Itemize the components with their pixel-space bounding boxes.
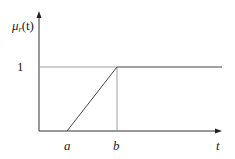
y-tick-1: 1 <box>17 59 24 74</box>
x-axis-arrow-icon <box>215 129 222 134</box>
x-axis-label: t <box>216 138 220 153</box>
membership-line <box>67 67 222 131</box>
membership-function-chart: μr(t) 1 a b t <box>0 0 235 159</box>
y-axis-label: μr(t) <box>11 18 34 34</box>
x-tick-a: a <box>64 138 71 153</box>
y-axis-arrow-icon <box>37 11 42 18</box>
x-tick-b: b <box>113 138 120 153</box>
